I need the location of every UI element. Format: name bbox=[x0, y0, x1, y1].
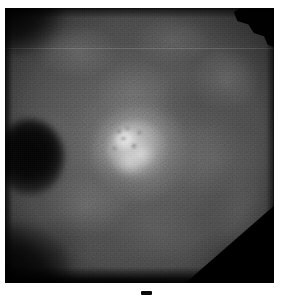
image-canvas bbox=[0, 0, 282, 299]
edge-shadow-top bbox=[5, 8, 274, 18]
bottom-center-tick-mark bbox=[141, 291, 152, 295]
edge-shadow-right bbox=[266, 8, 274, 283]
lesion-speckle bbox=[117, 130, 121, 133]
lesion-speckle bbox=[126, 127, 129, 130]
lesion-speckle bbox=[113, 147, 116, 150]
edge-shadow-bottom bbox=[5, 267, 274, 283]
lesion-speckle bbox=[121, 137, 126, 140]
angiography-image-plate[interactable] bbox=[5, 8, 274, 283]
lesion-speckle bbox=[132, 144, 136, 148]
edge-shadow-left bbox=[5, 8, 13, 283]
lesion-speckle bbox=[138, 131, 141, 134]
